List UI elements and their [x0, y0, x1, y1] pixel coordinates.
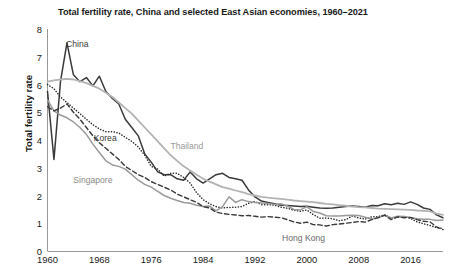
series-label-hong-kong: Hong Kong — [282, 233, 325, 243]
series-label-thailand: Thailand — [170, 141, 203, 151]
x-tick-label: 1984 — [193, 254, 214, 265]
series-line-hong-kong — [48, 104, 444, 230]
x-tick-label: 2008 — [348, 254, 369, 265]
series-line-thailand — [48, 79, 444, 215]
series-label-singapore: Singapore — [73, 175, 112, 185]
x-tick-label: 1968 — [89, 254, 110, 265]
x-tick-label: 1960 — [37, 254, 58, 265]
series-label-korea: Korea — [94, 133, 117, 143]
series-label-china: China — [66, 39, 88, 49]
series-line-china — [48, 43, 444, 218]
series-line-singapore — [48, 100, 444, 221]
x-tick-label: 1992 — [245, 254, 266, 265]
x-tick-label: 2016 — [400, 254, 421, 265]
series-line-korea — [48, 85, 444, 229]
chart-figure: Total fertility rate, China and selected… — [0, 0, 450, 276]
x-tick-label: 1976 — [141, 254, 162, 265]
x-tick-label: 2000 — [296, 254, 317, 265]
